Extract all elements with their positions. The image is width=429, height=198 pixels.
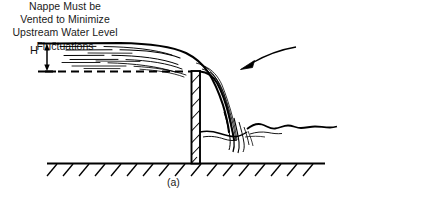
head-dimension-arrow	[38, 44, 56, 72]
nappe	[196, 63, 237, 141]
ground-hatching	[47, 164, 313, 176]
weir-nappe-diagram	[0, 0, 429, 198]
head-dimension-label: H	[30, 44, 38, 56]
figure-caption: (a)	[167, 176, 180, 188]
downstream-pool-surface	[200, 124, 337, 141]
ground	[47, 164, 325, 177]
weir-plate	[192, 71, 201, 164]
leader-arrow	[241, 47, 297, 70]
